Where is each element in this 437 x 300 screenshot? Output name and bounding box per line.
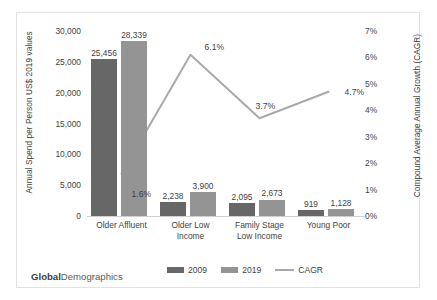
y-axis-left-tick: 15,000 xyxy=(55,120,81,128)
plot-area: 25,45628,3392,2383,9002,0952,6739191,128… xyxy=(87,31,363,216)
bar-2019 xyxy=(328,209,354,216)
bar-value-label: 2,673 xyxy=(252,189,292,197)
y-axis-left-tick: 5,000 xyxy=(60,181,81,189)
legend-item-2009: 2009 xyxy=(167,265,207,275)
y-axis-right-tick: 4% xyxy=(365,106,377,114)
legend-swatch-2009 xyxy=(167,267,184,273)
bar-2009 xyxy=(160,202,186,216)
bar-2019 xyxy=(190,192,216,216)
y-axis-left-tick: 30,000 xyxy=(55,27,81,35)
y-axis-right-tick: 6% xyxy=(365,53,377,61)
legend-swatch-2019 xyxy=(221,267,238,273)
y-axis-left-ticks: 05,00010,00015,00020,00025,00030,000 xyxy=(41,13,81,287)
bar-2009 xyxy=(229,203,255,216)
brand-name-rest: Demographics xyxy=(61,271,123,282)
x-axis-category-label: Young Poor xyxy=(287,220,371,231)
bar-group: 2,2383,900 xyxy=(156,31,225,216)
y-axis-left-tick: 10,000 xyxy=(55,150,81,158)
y-axis-right-ticks: 0%1%2%3%4%5%6%7% xyxy=(365,13,405,287)
y-axis-left-title: Annual Spend per Person US$ 2019 values xyxy=(25,34,34,194)
legend-item-cagr: CAGR xyxy=(275,265,323,275)
legend-label-2019: 2019 xyxy=(242,265,261,275)
bar-group: 2,0952,673 xyxy=(225,31,294,216)
y-axis-left-tick: 25,000 xyxy=(55,58,81,66)
x-axis-category-labels: Older AffluentOlder LowIncomeFamily Stag… xyxy=(87,220,363,254)
cagr-value-label: 6.1% xyxy=(205,43,225,52)
cagr-value-label: 4.7% xyxy=(345,88,365,97)
bar-group: 9191,128 xyxy=(294,31,363,216)
y-axis-right-title: Compound Average Annual Growth (CAGR) xyxy=(413,26,422,206)
bar-2009 xyxy=(298,210,324,216)
brand-name-bold: Global xyxy=(31,271,61,282)
y-axis-left-tick: 20,000 xyxy=(55,89,81,97)
legend-swatch-cagr xyxy=(275,269,294,271)
y-axis-right-tick: 2% xyxy=(365,159,377,167)
bar-value-label: 28,339 xyxy=(114,31,154,39)
chart-legend: 2009 2019 CAGR xyxy=(167,265,323,275)
cagr-value-label: 3.7% xyxy=(256,102,276,111)
bar-value-label: 1,128 xyxy=(321,199,361,207)
y-axis-right-tick: 7% xyxy=(365,27,377,35)
bar-2009 xyxy=(91,59,117,216)
y-axis-right-tick: 1% xyxy=(365,186,377,194)
brand-logo: GlobalDemographics xyxy=(31,271,123,282)
bar-value-label: 2,238 xyxy=(153,192,193,200)
bar-value-label: 3,900 xyxy=(183,182,223,190)
y-axis-right-tick: 3% xyxy=(365,133,377,141)
bar-value-label: 25,456 xyxy=(84,49,124,57)
cagr-value-label: 1.6% xyxy=(132,190,152,199)
bar-2019 xyxy=(259,200,285,216)
y-axis-right-tick: 5% xyxy=(365,80,377,88)
legend-label-2009: 2009 xyxy=(188,265,207,275)
x-axis-line xyxy=(87,216,365,217)
chart-container: Annual Spend per Person US$ 2019 values … xyxy=(16,12,420,288)
legend-item-2019: 2019 xyxy=(221,265,261,275)
legend-label-cagr: CAGR xyxy=(298,265,323,275)
